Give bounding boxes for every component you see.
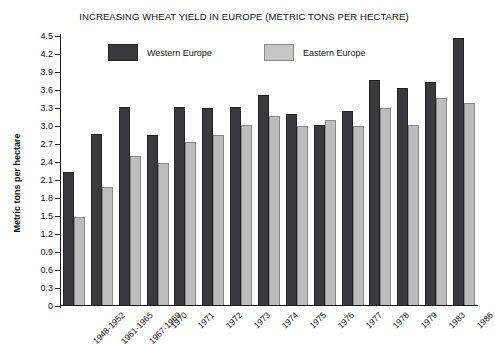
x-axis-label: 1977 (363, 310, 383, 330)
y-tick-mark (55, 162, 60, 163)
y-tick-label: 0.9 (40, 247, 53, 257)
bar-eastern-europe (74, 217, 85, 305)
y-tick-label: 3.9 (40, 67, 53, 77)
y-tick-mark (55, 126, 60, 127)
chart-title: INCREASING WHEAT YIELD IN EUROPE (METRIC… (0, 11, 488, 22)
y-tick-label: 1.8 (40, 193, 53, 203)
bar-western-europe (174, 107, 185, 305)
x-axis-label: 1972 (224, 310, 244, 330)
bar-group (424, 82, 448, 305)
y-tick-label: 0.3 (40, 283, 53, 293)
y-tick-mark (55, 288, 60, 289)
bar-eastern-europe (464, 103, 475, 305)
bar-eastern-europe (269, 116, 280, 305)
bar-western-europe (314, 125, 325, 305)
bar-group (229, 107, 253, 305)
bar-eastern-europe (436, 98, 447, 305)
bar-western-europe (258, 95, 269, 305)
bar-western-europe (453, 38, 464, 305)
x-axis-label: 1973 (252, 310, 272, 330)
y-tick-mark (55, 108, 60, 109)
bar-eastern-europe (353, 126, 364, 305)
bar-eastern-europe (185, 142, 196, 305)
y-tick-mark (55, 234, 60, 235)
y-tick-mark (55, 216, 60, 217)
y-axis-line (60, 34, 61, 308)
x-axis-label: 1971 (196, 310, 216, 330)
bar-western-europe (397, 88, 408, 305)
bar-group (201, 108, 225, 305)
bar-eastern-europe (408, 125, 419, 305)
y-axis-title: Metric tons per hectare (12, 108, 22, 258)
x-axis-label: 1979 (419, 310, 439, 330)
y-tick-label: 3.3 (40, 103, 53, 113)
bar-western-europe (202, 108, 213, 305)
y-tick-mark (55, 144, 60, 145)
bar-western-europe (369, 80, 380, 305)
y-tick-label: 3.0 (40, 121, 53, 131)
bar-group (368, 80, 392, 305)
bar-group (62, 172, 86, 305)
bar-eastern-europe (102, 187, 113, 305)
bar-group (452, 38, 476, 305)
bar-group (146, 135, 170, 305)
y-tick-mark (55, 270, 60, 271)
bar-group (118, 107, 142, 305)
bar-western-europe (147, 135, 158, 305)
y-tick-label: 1.5 (40, 211, 53, 221)
bar-western-europe (230, 107, 241, 305)
x-axis-label: 1974 (280, 310, 300, 330)
bar-eastern-europe (213, 135, 224, 305)
y-tick-mark (55, 54, 60, 55)
bar-eastern-europe (325, 120, 336, 305)
bar-group (173, 107, 197, 305)
x-axis-label: 1983 (447, 310, 467, 330)
bar-group (341, 111, 365, 305)
y-tick-label: 3.6 (40, 85, 53, 95)
y-tick-label: 4.2 (40, 49, 53, 59)
plot-area: 00.30.60.91.21.51.82.12.42.73.03.33.63.9… (60, 36, 478, 306)
x-axis-line (60, 305, 478, 306)
bar-western-europe (63, 172, 74, 305)
bar-western-europe (119, 107, 130, 305)
y-tick-label: 2.1 (40, 175, 53, 185)
y-tick-mark (55, 252, 60, 253)
y-tick-label: 4.5 (40, 31, 53, 41)
bar-eastern-europe (297, 126, 308, 305)
bar-eastern-europe (241, 125, 252, 305)
y-tick-label: 1.2 (40, 229, 53, 239)
y-tick-mark (55, 72, 60, 73)
bar-western-europe (286, 114, 297, 305)
bar-eastern-europe (130, 156, 141, 305)
bar-group (90, 134, 114, 305)
y-tick-label: 0 (48, 301, 53, 311)
bar-eastern-europe (380, 108, 391, 305)
bar-group (396, 88, 420, 305)
y-tick-mark (55, 180, 60, 181)
y-tick-mark (55, 36, 60, 37)
y-tick-label: 0.6 (40, 265, 53, 275)
y-tick-label: 2.4 (40, 157, 53, 167)
bar-group (257, 95, 281, 305)
bar-western-europe (425, 82, 436, 305)
x-axis-label: 1978 (391, 310, 411, 330)
x-axis-label: 1976 (335, 310, 355, 330)
bar-western-europe (91, 134, 102, 305)
bar-eastern-europe (158, 163, 169, 305)
y-tick-mark (55, 90, 60, 91)
bar-group (285, 114, 309, 305)
y-tick-mark (55, 198, 60, 199)
bar-western-europe (342, 111, 353, 305)
y-tick-label: 2.7 (40, 139, 53, 149)
bar-group (313, 120, 337, 305)
x-axis-label: 1986 (475, 310, 495, 330)
x-axis-label: 1975 (307, 310, 327, 330)
y-tick-mark (55, 306, 60, 307)
